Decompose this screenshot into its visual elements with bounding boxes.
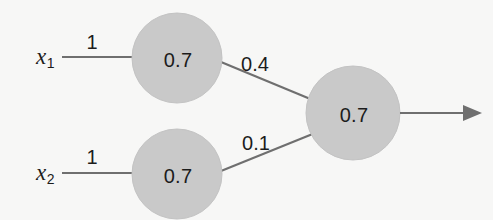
edge-hidden-bottom-to-output	[221, 131, 320, 171]
weight-label-hidden-bottom-output: 0.1	[242, 132, 270, 155]
input-label-x2-subscript: 2	[47, 171, 55, 187]
node-value-output: 0.7	[340, 104, 368, 127]
input-label-x2: x2	[36, 160, 54, 186]
input-label-x1-base: x	[36, 44, 46, 69]
input-label-x1-subscript: 1	[47, 55, 55, 71]
node-value-hidden-top: 0.7	[164, 49, 192, 72]
weight-label-hidden-top-output: 0.4	[241, 53, 269, 76]
output-arrow-head	[463, 105, 482, 121]
weight-label-x1-hidden-top: 1	[86, 31, 97, 54]
diagram-canvas	[0, 0, 493, 220]
input-label-x2-base: x	[36, 160, 46, 185]
node-value-hidden-bottom: 0.7	[164, 165, 192, 188]
edge-hidden-top-to-output	[221, 62, 320, 103]
neural-network-diagram: x1 x2 1 1 0.4 0.1 0.7 0.7 0.7	[0, 0, 493, 220]
input-label-x1: x1	[36, 44, 54, 70]
weight-label-x2-hidden-bottom: 1	[86, 146, 97, 169]
